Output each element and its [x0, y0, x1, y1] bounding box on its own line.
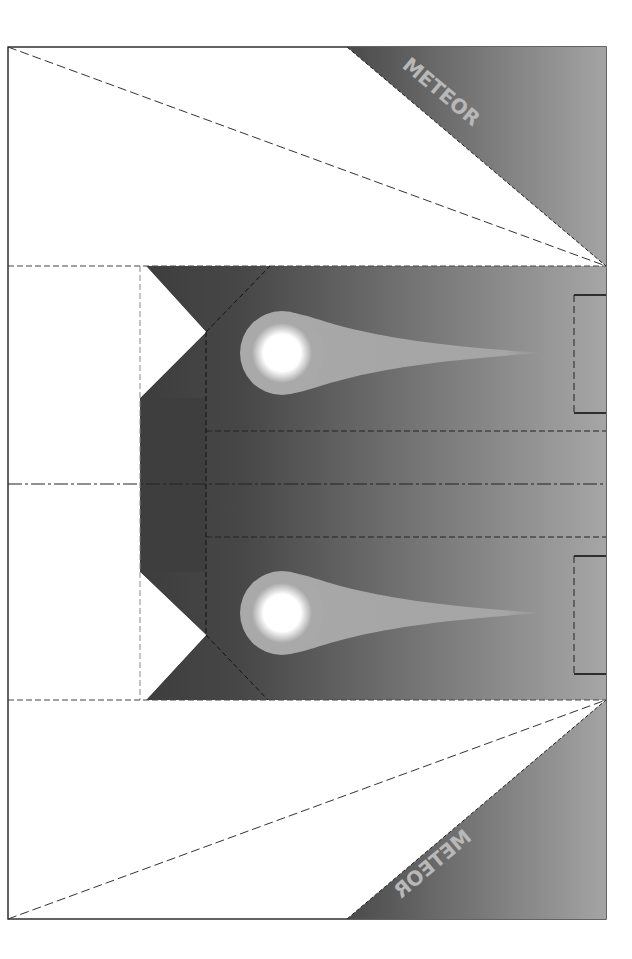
template-canvas: METEOR METEOR	[0, 0, 632, 959]
body-left-strip	[140, 398, 206, 572]
meteor-body-panel	[140, 266, 606, 700]
